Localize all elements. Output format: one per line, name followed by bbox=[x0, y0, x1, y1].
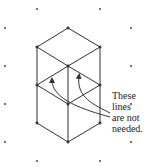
annotation-line-3: are not bbox=[112, 112, 143, 123]
grid-dot bbox=[36, 8, 38, 10]
cube-edge bbox=[68, 123, 100, 142]
grid-dot bbox=[4, 65, 6, 67]
vertex-dot bbox=[36, 46, 38, 48]
cube-edge bbox=[68, 28, 100, 47]
grid-dot bbox=[4, 27, 6, 29]
cube-edge bbox=[37, 123, 68, 142]
annotation-line-4: needed. bbox=[112, 123, 143, 134]
grid-dot bbox=[130, 27, 132, 29]
vertex-dot bbox=[99, 84, 101, 86]
vertex-dot bbox=[36, 84, 38, 86]
vertex-dot bbox=[67, 103, 69, 105]
isometric-cube-stack bbox=[0, 0, 148, 168]
cube-edge bbox=[37, 47, 68, 66]
vertex-dot bbox=[99, 46, 101, 48]
vertex-dot bbox=[36, 122, 38, 124]
grid-dot bbox=[4, 103, 6, 105]
cube-edge bbox=[68, 47, 100, 66]
grid-dot bbox=[99, 8, 101, 10]
annotation-line-1: These bbox=[112, 90, 143, 101]
cube-edge bbox=[37, 28, 68, 47]
vertex-dot bbox=[67, 65, 69, 67]
annotation-text: These lines are not needed. bbox=[112, 90, 143, 134]
grid-dot bbox=[130, 65, 132, 67]
grid-dot bbox=[99, 160, 101, 162]
annotation-line-2: lines bbox=[112, 101, 143, 112]
cube-edge bbox=[68, 66, 100, 85]
grid-dot bbox=[4, 141, 6, 143]
grid-dot bbox=[36, 160, 38, 162]
isometric-drawing-figure: These lines are not needed. bbox=[0, 0, 148, 168]
cube-edges bbox=[36, 27, 101, 143]
cube-edge bbox=[37, 85, 68, 104]
vertex-dot bbox=[99, 122, 101, 124]
vertex-dot bbox=[67, 27, 69, 29]
grid-dot bbox=[130, 141, 132, 143]
vertex-dot bbox=[67, 141, 69, 143]
cube-edge bbox=[68, 85, 100, 104]
